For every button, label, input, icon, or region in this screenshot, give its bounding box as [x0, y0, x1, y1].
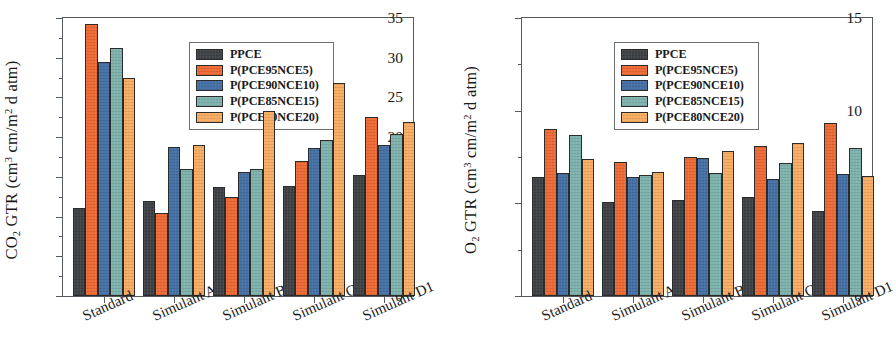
bar-b-2-2: [697, 158, 709, 296]
legend-swatch-b-1: [621, 65, 648, 76]
legend-label-b-1: P(PCE95NCE5): [655, 63, 738, 78]
bar-a-0-0: [73, 208, 85, 296]
legend-swatch-a-4: [196, 112, 223, 123]
bar-a-3-3: [320, 140, 332, 296]
y-tick-a-30: [56, 58, 63, 59]
bar-a-2-2: [238, 172, 250, 296]
bar-b-1-0: [602, 202, 614, 296]
bar-b-1-1: [614, 162, 626, 296]
bar-a-0-3: [110, 48, 122, 296]
bar-b-2-4: [722, 151, 734, 296]
plot-area-a: PPCEP(PCE95NCE5)P(PCE90NCE10)P(PCE85NCE1…: [62, 17, 414, 297]
legend-row-a-3: P(PCE85NCE15): [196, 94, 325, 110]
y-tick-a-15: [56, 177, 63, 178]
legend-label-a-3: P(PCE85NCE15): [230, 94, 319, 109]
panel-b: O2 GTR (cm3 cm/m2 d atm) b) PPCEP(PCE95N…: [437, 0, 874, 351]
bar-b-3-2: [767, 179, 779, 296]
legend-label-b-2: P(PCE90NCE10): [655, 78, 744, 93]
legend-row-b-3: P(PCE85NCE15): [621, 94, 750, 110]
bar-a-1-4: [193, 145, 205, 296]
bar-b-0-0: [532, 177, 544, 296]
y-tick-a-25: [56, 97, 63, 98]
bar-b-0-2: [557, 173, 569, 296]
y-tick-minor-b-12.5: [518, 64, 522, 65]
y-tick-b-5: [515, 203, 522, 204]
bar-b-2-1: [684, 157, 696, 296]
panel-a: CO2 GTR (cm3 cm/m2 d atm) a) PPCEP(PCE95…: [0, 0, 437, 351]
legend-label-b-4: P(PCE80NCE20): [655, 110, 744, 125]
bar-b-1-3: [639, 175, 651, 296]
legend-swatch-b-0: [621, 49, 648, 60]
bar-b-3-1: [754, 146, 766, 296]
bar-a-1-0: [143, 201, 155, 296]
y-axis-label-b: O2 GTR (cm3 cm/m2 d atm): [461, 10, 485, 310]
legend-label-a-1: P(PCE95NCE5): [230, 63, 313, 78]
legend-label-b-3: P(PCE85NCE15): [655, 94, 744, 109]
legend-row-b-2: P(PCE90NCE10): [621, 78, 750, 94]
bar-a-4-2: [378, 145, 390, 296]
bar-a-0-1: [85, 24, 97, 296]
y-tick-minor-a-2.5: [59, 276, 63, 277]
bar-b-4-3: [849, 148, 861, 296]
y-tick-a-35: [56, 18, 63, 19]
bar-a-1-2: [168, 147, 180, 296]
bar-b-1-2: [627, 177, 639, 296]
bar-b-4-1: [824, 123, 836, 296]
y-tick-minor-b-2.5: [518, 250, 522, 251]
y-tick-minor-a-12.5: [59, 197, 63, 198]
bar-b-4-4: [862, 176, 874, 296]
y-tick-minor-a-32.5: [59, 38, 63, 39]
legend-swatch-a-0: [196, 49, 223, 60]
y-tick-b-0: [515, 296, 522, 297]
bar-b-3-4: [792, 143, 804, 296]
y-tick-minor-a-17.5: [59, 157, 63, 158]
legend-swatch-b-3: [621, 96, 648, 107]
legend-label-b-0: PPCE: [655, 47, 686, 62]
legend-row-b-4: P(PCE80NCE20): [621, 109, 750, 125]
bar-b-2-3: [709, 173, 721, 296]
bar-a-2-1: [225, 197, 237, 296]
bar-b-0-4: [582, 159, 594, 296]
legend-row-a-0: PPCE: [196, 47, 325, 63]
y-tick-minor-a-27.5: [59, 78, 63, 79]
bar-a-3-4: [333, 83, 345, 296]
bar-a-1-3: [180, 169, 192, 296]
bar-b-0-3: [569, 135, 581, 296]
legend-swatch-b-2: [621, 80, 648, 91]
legend-a: PPCEP(PCE95NCE5)P(PCE90NCE10)P(PCE85NCE1…: [189, 42, 334, 130]
legend-b: PPCEP(PCE95NCE5)P(PCE90NCE10)P(PCE85NCE1…: [614, 42, 759, 130]
legend-row-a-1: P(PCE95NCE5): [196, 63, 325, 79]
y-tick-label-b-10: 10: [847, 102, 863, 120]
bar-a-0-2: [98, 62, 110, 296]
y-axis-label-a: CO2 GTR (cm3 cm/m2 d atm): [2, 10, 26, 310]
legend-swatch-a-3: [196, 96, 223, 107]
bar-a-2-3: [250, 169, 262, 296]
legend-swatch-a-1: [196, 65, 223, 76]
legend-label-a-2: P(PCE90NCE10): [230, 78, 319, 93]
y-tick-a-10: [56, 217, 63, 218]
bar-b-3-3: [779, 163, 791, 296]
y-tick-a-20: [56, 137, 63, 138]
y-tick-label-b-15: 15: [847, 9, 863, 27]
bar-a-3-1: [295, 161, 307, 296]
legend-row-a-4: P(PCE80NCE20): [196, 109, 325, 125]
y-tick-a-5: [56, 256, 63, 257]
y-tick-label-a-30: 30: [388, 49, 404, 67]
bar-b-2-0: [672, 200, 684, 296]
bar-a-4-4: [403, 122, 415, 296]
y-tick-minor-a-7.5: [59, 236, 63, 237]
bar-b-0-1: [544, 129, 556, 296]
y-tick-label-a-35: 35: [388, 9, 404, 27]
bar-a-3-0: [283, 186, 295, 296]
bar-a-1-1: [155, 213, 167, 296]
legend-swatch-b-4: [621, 112, 648, 123]
legend-label-a-0: PPCE: [230, 47, 261, 62]
y-tick-label-a-25: 25: [388, 88, 404, 106]
bar-b-4-0: [812, 211, 824, 296]
legend-row-b-0: PPCE: [621, 47, 750, 63]
y-tick-minor-a-22.5: [59, 117, 63, 118]
legend-swatch-a-2: [196, 80, 223, 91]
legend-row-a-2: P(PCE90NCE10): [196, 78, 325, 94]
bar-b-4-2: [837, 174, 849, 296]
